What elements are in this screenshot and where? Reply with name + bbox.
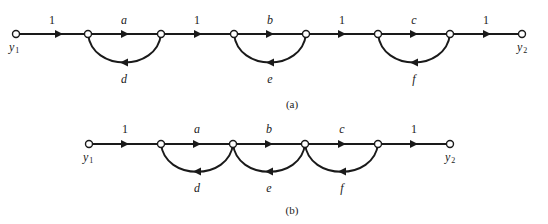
- gain-label: 1: [339, 13, 345, 27]
- arrow-icon: [265, 140, 273, 148]
- arrow-icon: [121, 140, 129, 148]
- feedback-loop-d: [161, 144, 233, 172]
- loop-gain-label: f: [412, 72, 417, 86]
- arrow-icon: [265, 168, 273, 176]
- node: [231, 31, 238, 38]
- loop-gain-label: e: [267, 72, 273, 86]
- arrow-icon: [338, 140, 346, 148]
- arrow-icon: [410, 30, 418, 38]
- loop-gain-label: d: [121, 72, 128, 86]
- signal-flow-graphs: 1 a 1 b 1 c 1 d e f y1 y2 (a): [0, 0, 548, 224]
- loop-gain-label: d: [194, 181, 201, 195]
- caption-b: (b): [286, 204, 299, 217]
- node: [85, 31, 92, 38]
- gain-label: a: [121, 13, 127, 27]
- arrow-icon: [266, 59, 274, 67]
- loop-gain-label: e: [266, 181, 272, 195]
- arrow-icon: [338, 30, 346, 38]
- node-y1: [86, 141, 93, 148]
- feedback-loop-e: [233, 144, 305, 172]
- caption-a: (a): [286, 98, 299, 111]
- arrow-icon: [121, 30, 129, 38]
- arrow-icon: [410, 59, 418, 67]
- gain-label: 1: [49, 13, 55, 27]
- feedback-loop-e: [234, 34, 306, 63]
- node: [303, 31, 310, 38]
- feedback-loop-f: [305, 144, 378, 172]
- diagram-b: 1 a b c 1 d e f y1 y2 (b): [82, 122, 455, 217]
- node: [230, 141, 237, 148]
- arrow-icon: [483, 30, 491, 38]
- gain-label: a: [194, 122, 200, 136]
- gain-label: b: [266, 122, 272, 136]
- diagram-a: 1 a 1 b 1 c 1 d e f y1 y2 (a): [8, 13, 527, 111]
- sink-label: y2: [444, 150, 455, 165]
- arrow-icon: [193, 168, 201, 176]
- feedback-loop-f: [378, 34, 450, 63]
- arrow-icon: [410, 140, 418, 148]
- arrow-icon: [55, 30, 63, 38]
- node-y2: [519, 31, 526, 38]
- node: [375, 141, 382, 148]
- gain-label: c: [339, 122, 345, 136]
- feedback-loop-d: [88, 34, 161, 63]
- node: [158, 141, 165, 148]
- node: [447, 31, 454, 38]
- gain-label: 1: [194, 13, 200, 27]
- arrow-icon: [338, 168, 346, 176]
- gain-label: 1: [122, 122, 128, 136]
- node: [375, 31, 382, 38]
- node: [158, 31, 165, 38]
- source-label: y1: [82, 150, 93, 165]
- gain-label: 1: [483, 13, 489, 27]
- sink-label: y2: [516, 40, 527, 55]
- gain-label: b: [267, 13, 273, 27]
- arrow-icon: [120, 59, 128, 67]
- arrow-icon: [266, 30, 274, 38]
- node-y2: [447, 141, 454, 148]
- node-y1: [13, 31, 20, 38]
- loop-gain-label: f: [340, 181, 345, 195]
- source-label: y1: [8, 40, 19, 55]
- arrow-icon: [194, 30, 202, 38]
- node: [302, 141, 309, 148]
- gain-label: 1: [411, 122, 417, 136]
- arrow-icon: [193, 140, 201, 148]
- gain-label: c: [411, 13, 417, 27]
